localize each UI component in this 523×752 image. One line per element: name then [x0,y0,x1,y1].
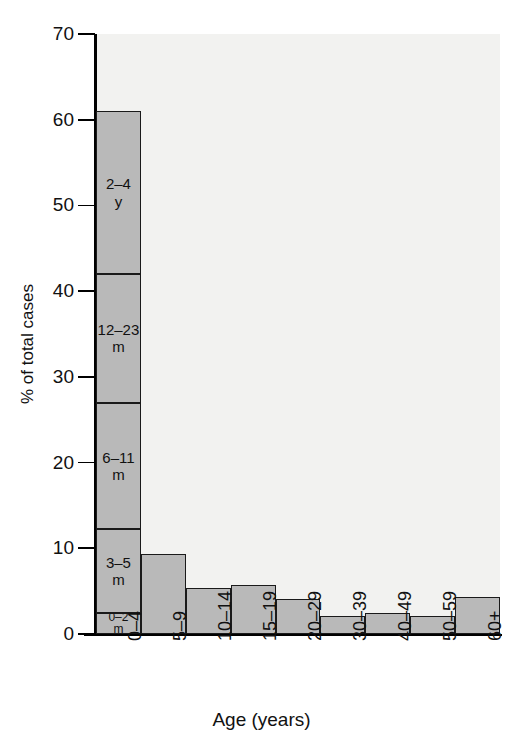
segment-label-line2: m [112,466,125,483]
y-axis-tick [78,376,95,378]
x-axis-tick-label: 30–39 [351,591,369,641]
segment-label-line2: m [113,623,123,634]
y-axis-tick-label: 10 [30,538,74,557]
y-axis-tick-label: 70 [30,24,74,43]
y-axis-tick [78,462,95,464]
x-axis-tick-label: 10–14 [216,591,234,641]
segment-label-line1: 3–5 [106,554,131,571]
y-axis-title: % of total cases [18,224,38,464]
segment-label-line2: y [115,193,123,210]
y-axis-tick-label: 0 [30,624,74,643]
plot-area-background [96,34,500,634]
segment-label-line2: m [112,571,125,588]
x-axis-tick-label: 20–29 [306,591,324,641]
x-axis-tick-label: 5–9 [171,611,189,641]
y-axis-tick-label: 60 [30,110,74,129]
stacked-bar-segment: 6–11m [96,403,141,530]
y-axis-tick [78,33,95,35]
segment-label-line2: m [112,338,125,355]
segment-label-line1: 2–4 [106,175,131,192]
figure-chart: 010203040506070 % of total cases 0–2m3–5… [0,0,523,752]
stacked-bar-segment: 2–4y [96,111,141,274]
y-axis-tick [78,633,95,635]
cropped-caption [44,744,484,752]
y-axis-tick-label: 50 [30,195,74,214]
y-axis-tick [78,205,95,207]
x-axis-tick-label: 60+ [486,610,504,641]
y-axis-tick [78,290,95,292]
x-axis-tick-label: 15–19 [261,591,279,641]
x-axis-tick-label: 40–49 [396,591,414,641]
segment-label-line1: 6–11 [102,449,134,466]
x-axis-tick-label: 50–59 [441,591,459,641]
y-axis-tick [78,119,95,121]
stacked-bar-segment: 12–23m [96,274,141,403]
x-axis-title: Age (years) [0,709,523,731]
y-axis-tick [78,547,95,549]
x-axis-tick-label: 0–4 [126,611,144,641]
segment-label-line1: 12–23 [98,321,140,338]
stacked-bar-segment: 3–5m [96,529,141,612]
